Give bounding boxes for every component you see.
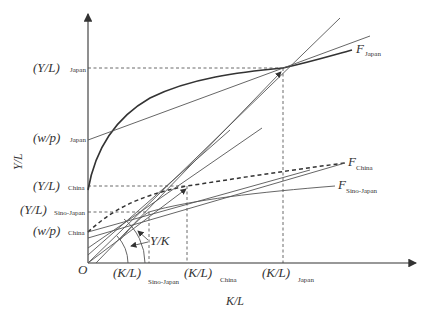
- yk-pointer-1: [131, 242, 148, 246]
- svg-text:Sino-Japan: Sino-Japan: [148, 278, 180, 286]
- ray-china: [88, 128, 262, 248]
- svg-text:F: F: [355, 41, 365, 56]
- svg-text:(Y/L): (Y/L): [20, 202, 47, 217]
- curve-f-japan: [88, 50, 352, 190]
- svg-text:China: China: [356, 164, 374, 172]
- ray-japan: [88, 18, 340, 263]
- wage-line-sino-japan: [88, 163, 345, 238]
- production-function-diagram: Y/K (Y/L) Japan (w/p) Japan (Y/L) China …: [0, 0, 425, 319]
- wage-line-china: [88, 170, 310, 232]
- y-label-yl-sino-japan: (Y/L) Sino-Japan: [20, 202, 86, 217]
- svg-text:(K/L): (K/L): [184, 265, 212, 280]
- svg-text:Sino-Japan: Sino-Japan: [54, 209, 86, 217]
- y-axis-title: Y/L: [11, 153, 25, 170]
- svg-text:China: China: [68, 184, 86, 192]
- svg-text:Japan: Japan: [365, 50, 381, 58]
- svg-text:(Y/L): (Y/L): [33, 178, 60, 193]
- curve-label-f-sino-japan: F Sino-Japan: [337, 177, 378, 195]
- x-axis-title: K/L: [225, 294, 244, 308]
- svg-text:Japan: Japan: [70, 66, 86, 74]
- svg-text:(w/p): (w/p): [33, 130, 60, 145]
- curve-f-sino-japan: [120, 186, 335, 240]
- x-label-kl-japan: (K/L) Japan: [262, 265, 314, 284]
- wage-line-japan: [88, 36, 370, 140]
- y-label-wp-japan: (w/p) Japan: [33, 130, 86, 145]
- svg-text:(K/L): (K/L): [262, 265, 290, 280]
- svg-text:(Y/L): (Y/L): [33, 60, 60, 75]
- ray-japan-arrow: [96, 72, 281, 263]
- curve-label-f-china: F China: [347, 154, 374, 172]
- yk-label: Y/K: [150, 233, 171, 248]
- y-label-yl-japan: (Y/L) Japan: [33, 60, 86, 75]
- svg-text:China: China: [220, 276, 238, 284]
- curve-label-f-japan: F Japan: [355, 41, 381, 58]
- svg-text:China: China: [68, 229, 86, 237]
- origin-label: O: [78, 262, 88, 277]
- svg-text:(w/p): (w/p): [33, 223, 60, 238]
- x-label-kl-sino-japan: (K/L) Sino-Japan: [113, 265, 180, 286]
- x-label-kl-china: (K/L) China: [184, 265, 238, 284]
- y-label-yl-china: (Y/L) China: [33, 178, 86, 193]
- svg-text:Sino-Japan: Sino-Japan: [346, 187, 378, 195]
- y-label-wp-china: (w/p) China: [33, 223, 86, 238]
- svg-text:(K/L): (K/L): [113, 265, 141, 280]
- svg-text:Japan: Japan: [298, 276, 314, 284]
- svg-text:Japan: Japan: [70, 136, 86, 144]
